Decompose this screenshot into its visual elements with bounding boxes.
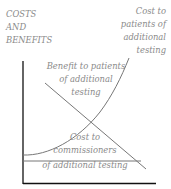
axis-label-line: COSTS [6, 8, 52, 21]
label-line: Cost to [121, 5, 166, 18]
label-line: additional [121, 31, 166, 44]
axis-label-line: BENEFITS [6, 34, 52, 47]
cost-to-commissioners-label: Cost to commissioners of additional test… [40, 131, 130, 172]
axis-label-line: AND [6, 21, 52, 34]
label-line: commissioners [40, 144, 130, 157]
benefit-to-patients-label: Benefit to patients of additional testin… [40, 60, 132, 99]
axis-label: COSTS AND BENEFITS [6, 8, 52, 47]
cost-to-patients-label: Cost to patients of additional testing [121, 5, 166, 57]
label-line: of additional testing [40, 159, 130, 172]
label-line: testing [121, 44, 166, 57]
label-line: Cost to [40, 131, 130, 144]
label-line: Benefit to patients [40, 60, 132, 73]
label-line: patients of [121, 18, 166, 31]
label-line: testing [40, 86, 132, 99]
label-line: of additional [40, 73, 132, 86]
